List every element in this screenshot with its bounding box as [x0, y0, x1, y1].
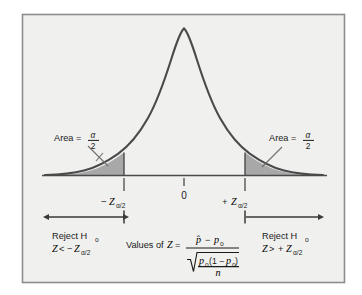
tick-label-left-sign: −: [101, 196, 107, 207]
area-label-left-text: Area =: [54, 133, 81, 143]
reject-label-left-line1: Reject H: [52, 231, 87, 241]
formula-denom-close-paren: ): [235, 256, 238, 266]
reject-label-right-relation: >: [269, 244, 274, 254]
figure-container: Area = α 2 Area = α 2 − Z α/2 0 + Z α/2: [0, 0, 362, 295]
formula-numerator-p-subscript: o: [220, 240, 224, 247]
formula-numerator-p: p: [213, 234, 219, 245]
formula-lead-text: Values of: [126, 240, 164, 250]
area-label-left-numerator: α: [91, 130, 96, 140]
formula-variable-z: Z: [167, 239, 173, 250]
reject-label-right-line1: Reject H: [262, 231, 297, 241]
formula-numerator-minus: −: [205, 235, 210, 245]
reject-label-right-line1-subscript: o: [305, 236, 309, 243]
formula-denom-minus: −: [219, 256, 224, 266]
area-label-right-numerator: α: [306, 130, 311, 140]
reject-label-right-subscript: α/2: [293, 249, 303, 256]
formula-denom-n: n: [215, 267, 220, 278]
area-label-right-denominator: 2: [306, 141, 311, 151]
reject-label-right-critical-z: Z: [286, 243, 292, 254]
area-label-left-denominator: 2: [91, 141, 96, 151]
reject-label-right-sign: +: [278, 244, 283, 254]
reject-label-left-sign: −: [67, 244, 72, 254]
normal-distribution-diagram: Area = α 2 Area = α 2 − Z α/2 0 + Z α/2: [0, 0, 362, 295]
formula-denom-p2: p: [225, 255, 231, 266]
tick-label-left-symbol: Z: [109, 196, 115, 207]
tick-label-right-subscript: α/2: [238, 202, 248, 209]
reject-label-left-critical-z: Z: [74, 243, 80, 254]
area-label-right-text: Area =: [269, 133, 296, 143]
reject-label-right-z: Z: [262, 243, 268, 254]
figure-border-box: [23, 15, 345, 283]
reject-label-left-relation: <: [59, 244, 64, 254]
formula-equals: =: [175, 240, 180, 250]
reject-label-left-subscript: α/2: [81, 249, 91, 256]
tick-label-right-symbol: Z: [231, 196, 237, 207]
reject-label-left-z: Z: [52, 243, 58, 254]
formula-numerator-phat: p̂: [195, 234, 201, 245]
tick-label-center-zero: 0: [181, 190, 187, 201]
tick-label-right-sign: +: [222, 196, 228, 207]
reject-label-left-line1-subscript: o: [95, 236, 99, 243]
formula-denom-open-paren: (1: [209, 256, 217, 266]
formula-denom-p1: p: [198, 255, 204, 266]
tick-label-left-subscript: α/2: [116, 202, 126, 209]
